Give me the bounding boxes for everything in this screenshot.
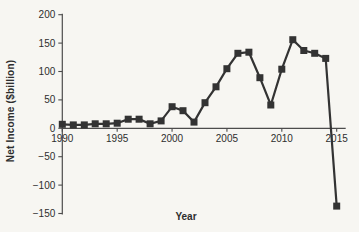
x-tick-label: 2005 [216,133,239,144]
y-tick-label: 200 [39,9,56,20]
data-point-2010 [278,66,285,73]
data-point-1990 [59,121,66,128]
axes: 200150100500−50−100−15019901995200020052… [33,9,348,219]
data-point-2009 [267,102,274,109]
data-point-1995 [114,120,121,127]
data-point-1998 [147,120,154,127]
data-point-2000 [169,103,176,110]
data-point-1992 [81,121,88,128]
x-tick-label: 2010 [271,133,294,144]
y-tick-label: 0 [50,123,56,134]
plot-area: 200150100500−50−100−15019901995200020052… [0,0,359,232]
data-point-2006 [234,50,241,57]
data-point-1991 [70,121,77,128]
data-point-2015 [333,203,340,210]
data-point-1993 [92,120,99,127]
data-point-2002 [191,119,198,126]
net-income-series [59,36,340,209]
data-point-2013 [311,50,318,57]
data-point-1997 [136,116,143,123]
data-point-2012 [300,47,307,54]
x-tick-label: 1995 [106,133,129,144]
y-tick-label: −150 [33,208,56,219]
data-point-1999 [158,117,165,124]
net-income-line-chart-figure: 200150100500−50−100−15019901995200020052… [0,0,359,232]
x-tick-label: 2000 [161,133,184,144]
data-point-2007 [245,49,252,56]
data-point-2003 [202,99,209,106]
data-point-1996 [125,116,132,123]
data-point-2004 [213,83,220,90]
data-point-2005 [223,65,230,72]
x-tick-label: 2015 [326,133,349,144]
data-point-1994 [103,120,110,127]
data-point-2001 [180,107,187,114]
y-axis-title: Net Income ($billion) [5,60,16,163]
y-tick-label: −50 [38,151,55,162]
x-tick-label: 1990 [51,133,74,144]
data-point-2008 [256,74,263,81]
data-point-2014 [322,55,329,62]
y-tick-label: 50 [44,94,56,105]
y-tick-label: 100 [39,66,56,77]
y-tick-label: 150 [39,38,56,49]
x-axis-title: Year [175,211,196,222]
data-point-2011 [289,36,296,43]
y-tick-label: −100 [33,180,56,191]
